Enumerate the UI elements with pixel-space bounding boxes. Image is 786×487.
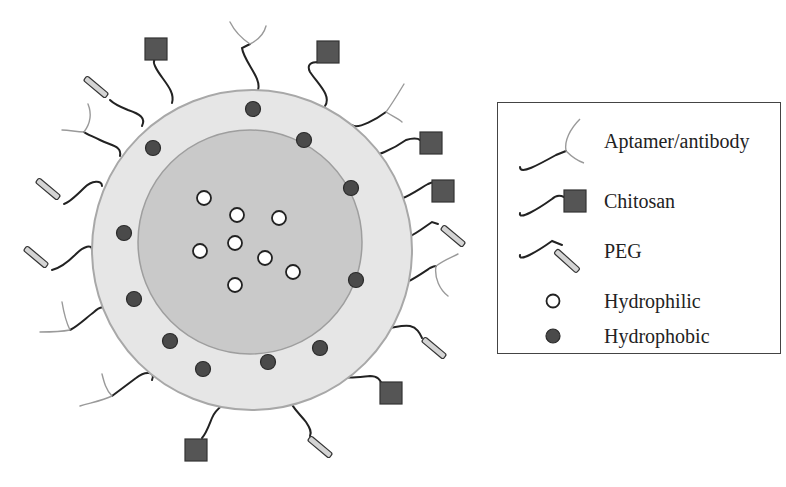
legend: Aptamer/antibody Chitosan PEG Hydrophili… [497, 102, 781, 354]
chitosan-icon [317, 41, 339, 63]
legend-item-hydrophobic: Hydrophobic [498, 317, 780, 357]
chitosan-icon [432, 180, 454, 202]
peg-icon [307, 436, 332, 459]
peg-icon [440, 225, 465, 248]
legend-label-hydrophobic: Hydrophobic [604, 324, 710, 348]
peg-icon [421, 337, 446, 360]
aptamer-antibody-icon [508, 111, 598, 173]
hydrophilic-icon [508, 283, 598, 313]
legend-label-chitosan: Chitosan [604, 189, 675, 213]
peg-icon [83, 76, 108, 99]
legend-label-peg: PEG [604, 239, 642, 263]
peg-icon [23, 246, 48, 269]
chitosan-icon [145, 38, 167, 60]
chitosan-icon [380, 382, 402, 404]
chitosan-icon [185, 439, 207, 461]
hydrophobic-icon [508, 317, 598, 347]
legend-item-chitosan: Chitosan [498, 181, 780, 221]
legend-item-peg: PEG [498, 233, 780, 277]
legend-item-aptamer: Aptamer/antibody [498, 111, 780, 173]
peg-icon [35, 178, 60, 201]
legend-label-hydrophilic: Hydrophilic [604, 289, 701, 313]
chitosan-icon [420, 132, 442, 154]
chitosan-icon [508, 181, 598, 221]
legend-label-aptamer: Aptamer/antibody [604, 129, 750, 153]
peg-icon [508, 233, 598, 277]
inner-core [138, 130, 362, 354]
